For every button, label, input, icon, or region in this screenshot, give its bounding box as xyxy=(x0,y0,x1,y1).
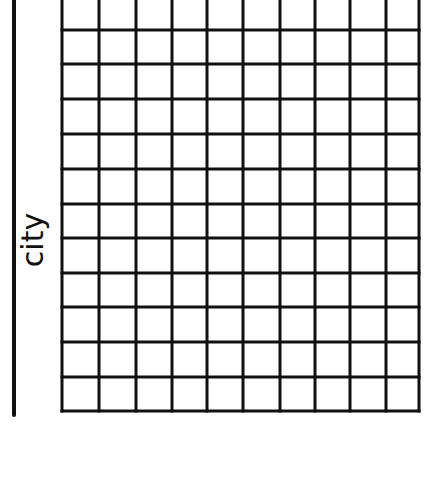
blank-grid xyxy=(0,0,430,498)
worksheet-chart: city xyxy=(0,0,430,498)
